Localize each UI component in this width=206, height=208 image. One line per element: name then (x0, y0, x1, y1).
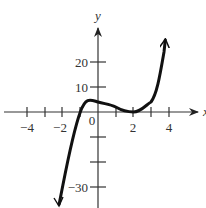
function-graph: −4 −2 0 2 4 20 10 −30 y x (0, 0, 206, 208)
x-tick-label-0: 0 (89, 113, 96, 128)
y-tick-label-20: 20 (75, 55, 88, 70)
x-tick-label-neg2: −2 (53, 120, 67, 135)
y-tick-label-neg30: −30 (68, 180, 88, 195)
x-tick-label-neg4: −4 (20, 120, 34, 135)
x-axis-label: x (202, 104, 206, 119)
x-tick-label-4: 4 (166, 120, 173, 135)
y-axis-label: y (93, 8, 101, 23)
x-tick-label-2: 2 (130, 120, 137, 135)
y-tick-label-10: 10 (75, 80, 88, 95)
